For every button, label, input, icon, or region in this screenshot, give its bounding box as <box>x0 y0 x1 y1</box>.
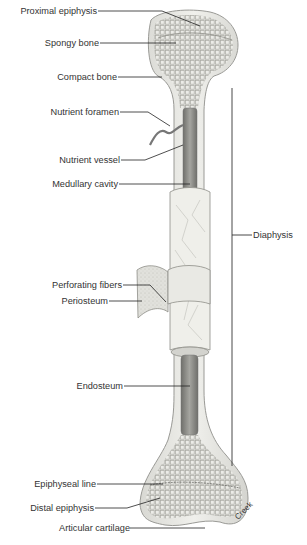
medullary-cavity-lower <box>181 355 198 435</box>
label-nutrient-vessel: Nutrient vessel <box>59 155 120 165</box>
label-endosteum: Endosteum <box>77 381 123 391</box>
label-medullary-cavity: Medullary cavity <box>52 179 118 189</box>
long-bone-diagram: Creek Proximal epiphysis Spongy bone Com… <box>0 0 307 545</box>
label-articular-cartilage: Articular cartilage <box>59 523 130 533</box>
label-periosteum: Periosteum <box>62 296 108 306</box>
bone-illustration: Creek <box>0 0 307 545</box>
label-proximal-epiphysis: Proximal epiphysis <box>20 6 97 16</box>
label-perforating-fibers: Perforating fibers <box>52 280 122 290</box>
label-compact-bone: Compact bone <box>57 72 117 82</box>
periosteum-flap <box>137 266 168 318</box>
medullary-cavity-upper <box>183 108 197 190</box>
label-spongy-bone: Spongy bone <box>45 38 99 48</box>
label-distal-epiphysis: Distal epiphysis <box>30 503 94 513</box>
label-epiphyseal-line: Epiphyseal line <box>34 479 96 489</box>
label-nutrient-foramen: Nutrient foramen <box>51 107 119 117</box>
label-diaphysis: Diaphysis <box>253 230 293 240</box>
distal-spongy-bone <box>146 435 242 518</box>
proximal-spongy-bone <box>154 15 233 108</box>
